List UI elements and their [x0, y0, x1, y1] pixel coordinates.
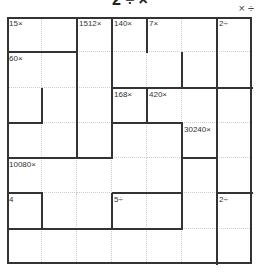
grid-cell[interactable] [147, 52, 182, 87]
grid-cell[interactable] [182, 52, 217, 87]
grid-cell[interactable] [112, 123, 147, 158]
puzzle-title: 2 ÷ × [0, 0, 260, 9]
cage-wall [216, 17, 218, 194]
grid-cell[interactable] [147, 229, 182, 264]
grid-cell[interactable] [147, 158, 182, 193]
cage-wall [182, 157, 218, 159]
grid-cell[interactable] [7, 123, 42, 158]
grid-cell[interactable] [217, 229, 252, 264]
grid-cell[interactable] [42, 52, 77, 87]
cage-wall [146, 17, 148, 53]
cage-clue: 168× [112, 88, 132, 99]
grid-cell[interactable] [182, 193, 217, 228]
grid-cell[interactable] [112, 52, 147, 87]
cage-clue: 10080× [7, 158, 36, 169]
cage-wall [181, 52, 183, 88]
cage-wall [146, 88, 148, 124]
cage-wall [7, 192, 43, 194]
grid-cell[interactable] [217, 158, 252, 193]
grid-cell[interactable] [42, 193, 77, 228]
grid-cell[interactable] [42, 229, 77, 264]
cage-clue: 30240× [182, 123, 211, 134]
grid-cell[interactable] [182, 229, 217, 264]
cage-wall [111, 17, 113, 159]
grid-cell[interactable] [7, 229, 42, 264]
cage-wall [41, 193, 43, 229]
cage-wall [111, 193, 113, 229]
grid-cell[interactable] [42, 88, 77, 123]
cage-wall [7, 122, 43, 124]
cage-wall [216, 193, 218, 265]
grid-cell[interactable] [42, 17, 77, 52]
operators-label: × ÷ [238, 2, 254, 14]
cage-wall [7, 157, 113, 159]
grid-cell[interactable] [77, 123, 112, 158]
grid-cell[interactable] [217, 123, 252, 158]
grid-cell[interactable] [77, 158, 112, 193]
grid-cell[interactable] [77, 229, 112, 264]
cage-clue: 60× [7, 52, 23, 63]
cage-wall [250, 17, 252, 264]
cage-clue: 5÷ [112, 193, 123, 204]
cage-clue: 2÷ [217, 193, 228, 204]
cage-clue: 420× [147, 88, 167, 99]
grid-cell[interactable] [182, 158, 217, 193]
grid-cell[interactable] [217, 52, 252, 87]
kenken-grid[interactable]: 15×1512×140×7×2÷60×168×420×30240×10080×4… [7, 17, 252, 264]
grid-cell[interactable] [147, 193, 182, 228]
grid-cell[interactable] [42, 158, 77, 193]
cage-wall [7, 228, 183, 230]
grid-cell[interactable] [7, 88, 42, 123]
grid-cell[interactable] [112, 229, 147, 264]
grid-cell[interactable] [112, 158, 147, 193]
grid-cell[interactable] [77, 52, 112, 87]
cage-wall [76, 17, 78, 159]
cage-wall [112, 192, 183, 194]
grid-cell[interactable] [182, 88, 217, 123]
grid-cell[interactable] [182, 17, 217, 52]
grid-cell[interactable] [77, 88, 112, 123]
grid-cell[interactable] [42, 123, 77, 158]
cage-wall [41, 88, 43, 124]
grid-cell[interactable] [147, 123, 182, 158]
cage-wall [7, 51, 78, 53]
grid-cell[interactable] [77, 193, 112, 228]
grid-cell[interactable] [217, 88, 252, 123]
cage-wall [217, 192, 253, 194]
cage-wall [181, 123, 183, 230]
